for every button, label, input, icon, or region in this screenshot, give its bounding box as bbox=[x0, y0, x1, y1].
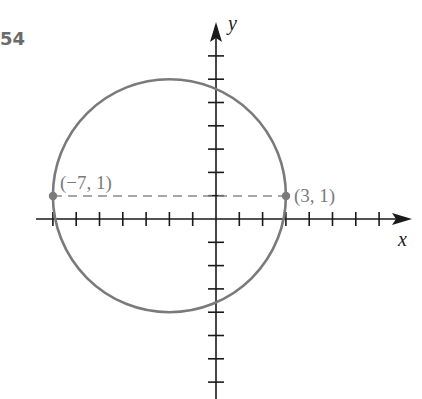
point-left bbox=[49, 192, 57, 200]
coordinate-plane: (−7, 1) (3, 1) x y bbox=[0, 0, 422, 399]
point-right bbox=[282, 192, 290, 200]
point-right-label: (3, 1) bbox=[294, 185, 335, 207]
figure: 54 (−7, 1) (3, 1) x y bbox=[0, 0, 422, 399]
x-axis-label: x bbox=[397, 228, 407, 250]
point-left-label: (−7, 1) bbox=[60, 172, 112, 194]
y-axis-label: y bbox=[226, 12, 237, 35]
